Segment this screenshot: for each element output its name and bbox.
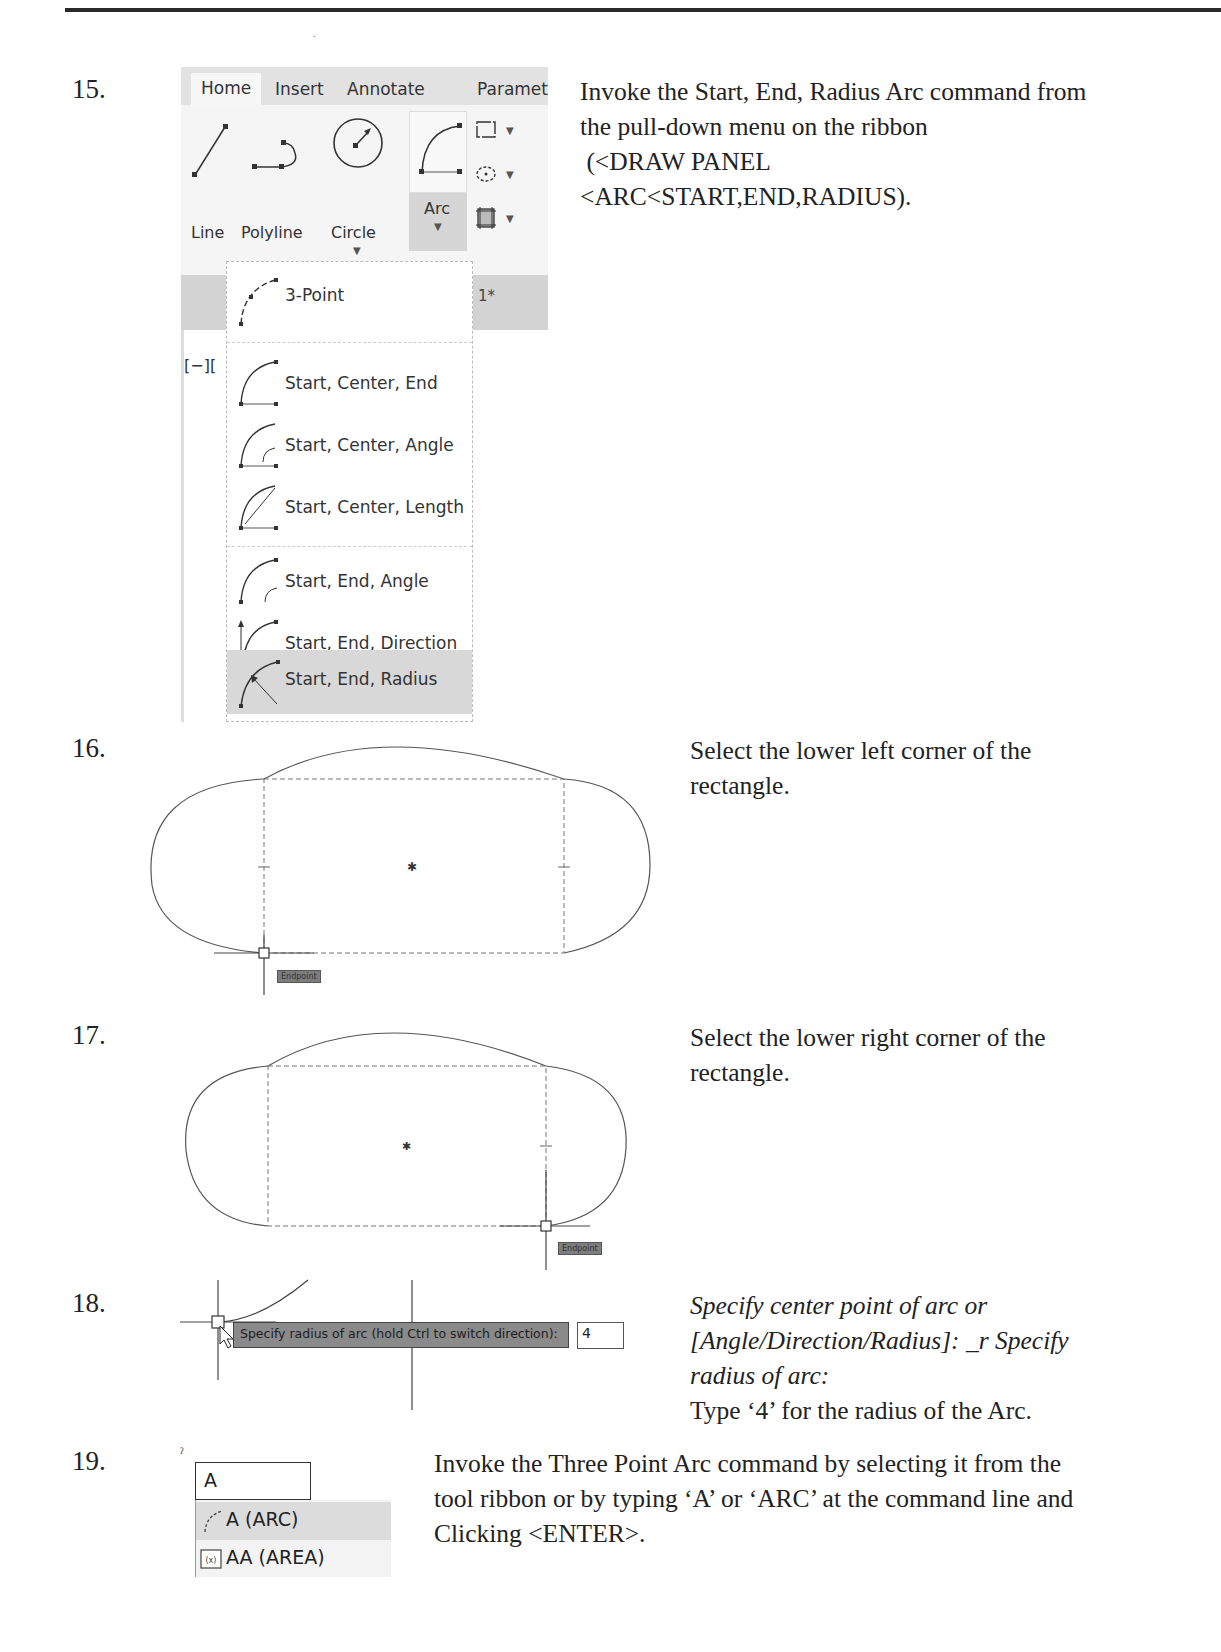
menu-item-label: Start, End, Angle — [285, 571, 429, 591]
step-number-17: 17. — [72, 1020, 106, 1051]
mouse-pointer-icon — [220, 1326, 233, 1348]
arc-3point-icon — [202, 1508, 224, 1534]
ellipse-icon — [474, 163, 498, 185]
crosshair-cursor-icon — [214, 935, 314, 995]
arc-icon — [416, 120, 464, 176]
text-line: <ARC<START,END,RADIUS). — [580, 179, 1180, 214]
menu-item-label: Start, Center, Angle — [285, 435, 454, 455]
arc-start-center-length-icon — [237, 482, 281, 534]
tab-insert[interactable]: Insert — [275, 79, 324, 99]
tab-parametric[interactable]: Paramet — [477, 79, 548, 99]
draw-panel: Line Polyline Circle ▼ — [181, 105, 548, 275]
polyline-tool-button[interactable]: Polyline — [237, 105, 317, 255]
header-rule — [65, 8, 1221, 12]
arc-start-center-angle-icon — [237, 420, 281, 472]
step-number-18: 18. — [72, 1288, 106, 1319]
step-16-drawing: ✱ — [150, 735, 660, 995]
step-15-instructions: Invoke the Start, End, Radius Arc comman… — [580, 74, 1180, 214]
menu-item-label: 3-Point — [285, 285, 344, 305]
hatch-tool-button[interactable]: ▼ — [474, 205, 524, 231]
command-line-input[interactable]: A — [195, 1462, 311, 1500]
suggestion-arc[interactable]: A (ARC) — [196, 1502, 391, 1540]
arc-dropdown-caret-icon[interactable]: ▼ — [434, 221, 442, 232]
arc-dropdown-menu: 3-Point Start, Center, End Start, Center… — [226, 261, 473, 722]
stray-mark: . — [313, 28, 316, 39]
text-line: rectangle. — [690, 1055, 1170, 1090]
text-line: Clicking <ENTER>. — [434, 1516, 1194, 1551]
menu-item-label: Start, End, Radius — [285, 669, 437, 689]
step-number-19: 19. — [72, 1446, 106, 1477]
text-line: Invoke the Start, End, Radius Arc comman… — [580, 74, 1180, 109]
text-line: Specify center point of arc or — [690, 1288, 1190, 1323]
menu-item-start-center-length[interactable]: Start, Center, Length — [227, 478, 472, 540]
step-19-instructions: Invoke the Three Point Arc command by se… — [434, 1446, 1194, 1551]
polyline-tool-label: Polyline — [241, 223, 303, 242]
line-tool-button[interactable]: Line — [185, 105, 237, 255]
text-line: Select the lower left corner of the — [690, 733, 1170, 768]
text-line: radius of arc: — [690, 1358, 1190, 1393]
text-line: (<DRAW PANEL — [580, 144, 1180, 179]
center-marker-icon: ✱ — [402, 1140, 411, 1152]
menu-item-label: Start, Center, Length — [285, 497, 464, 517]
text-line: rectangle. — [690, 768, 1170, 803]
step-18-drawing — [180, 1280, 620, 1420]
autocad-ribbon-screenshot: Home Insert Annotate Paramet Line Polyli… — [181, 67, 548, 722]
line-tool-label: Line — [191, 223, 224, 242]
rectangle-icon — [474, 119, 498, 141]
rectangle-dropdown-caret-icon[interactable]: ▼ — [506, 125, 514, 136]
step-17-instructions: Select the lower right corner of the rec… — [690, 1020, 1170, 1090]
suggestion-area[interactable]: (x) AA (AREA) — [196, 1540, 391, 1578]
menu-separator — [227, 342, 472, 343]
polyline-icon — [249, 135, 305, 175]
obround-outline — [186, 1033, 627, 1226]
arc-start-end-angle-icon — [237, 556, 281, 608]
menu-item-start-end-angle[interactable]: Start, End, Angle — [227, 552, 472, 614]
text-line: Invoke the Three Point Arc command by se… — [434, 1446, 1194, 1481]
hatch-icon — [474, 205, 498, 231]
text-line: tool ribbon or by typing ‘A’ or ‘ARC’ at… — [434, 1481, 1194, 1516]
text-line: the pull-down menu on the ribbon — [580, 109, 1180, 144]
text-line: [Angle/Direction/Radius]: _r Specify — [690, 1323, 1190, 1358]
arc-start-end-radius-icon — [237, 656, 285, 710]
circle-dropdown-caret-icon[interactable]: ▼ — [353, 245, 361, 256]
stray-glyph: ˀ — [180, 1446, 183, 1462]
tab-annotate[interactable]: Annotate — [347, 79, 425, 99]
line-icon — [191, 121, 231, 181]
radius-input-field[interactable]: 4 — [577, 1322, 624, 1349]
ribbon-tab-bar: Home Insert Annotate Paramet — [181, 67, 548, 105]
center-marker-icon: ✱ — [407, 860, 417, 874]
viewport-control-label: [−][ — [184, 356, 216, 375]
suggestion-label: A (ARC) — [226, 1508, 298, 1530]
arc-start-center-end-icon — [237, 358, 281, 410]
svg-text:(x): (x) — [206, 1556, 217, 1565]
step-number-16: 16. — [72, 733, 106, 764]
tab-home[interactable]: Home — [191, 73, 261, 105]
arc-tool-button[interactable]: Arc ▼ — [409, 111, 467, 251]
step-18-instructions: Specify center point of arc or [Angle/Di… — [690, 1288, 1190, 1428]
suggestion-label: AA (AREA) — [226, 1546, 325, 1568]
menu-item-start-center-end[interactable]: Start, Center, End — [227, 354, 472, 416]
menu-item-3-point[interactable]: 3-Point — [227, 266, 472, 338]
ellipse-dropdown-caret-icon[interactable]: ▼ — [506, 169, 514, 180]
arc-preview — [220, 1280, 308, 1322]
circle-tool-label: Circle — [331, 223, 376, 242]
endpoint-snap-tooltip: Endpoint — [277, 970, 321, 983]
text-line: Select the lower right corner of the — [690, 1020, 1170, 1055]
ellipse-tool-button[interactable]: ▼ — [474, 163, 524, 187]
menu-item-start-center-angle[interactable]: Start, Center, Angle — [227, 416, 472, 478]
endpoint-snap-tooltip: Endpoint — [558, 1242, 602, 1255]
menu-item-start-end-radius[interactable]: Start, End, Radius — [227, 650, 472, 714]
step-16-instructions: Select the lower left corner of the rect… — [690, 733, 1170, 803]
circle-icon — [331, 115, 385, 171]
area-icon: (x) — [200, 1549, 222, 1569]
step-number-15: 15. — [72, 74, 106, 105]
menu-separator — [227, 546, 472, 547]
text-line: Type ‘4’ for the radius of the Arc. — [690, 1393, 1190, 1428]
crosshair-cursor-icon — [500, 1170, 590, 1270]
circle-tool-button[interactable]: Circle ▼ — [321, 105, 393, 265]
hatch-dropdown-caret-icon[interactable]: ▼ — [506, 213, 514, 224]
rectangle-tool-button[interactable]: ▼ — [474, 119, 524, 143]
command-autocomplete-list: A (ARC) (x) AA (AREA) — [195, 1500, 391, 1577]
obround-outline — [151, 747, 650, 953]
step-17-drawing: ✱ — [150, 1020, 660, 1270]
